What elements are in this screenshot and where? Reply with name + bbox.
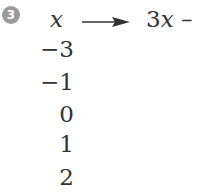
input-value-row: −1 [40,69,74,95]
expr-variable: x [161,6,174,32]
input-value-row: 2 [59,164,74,190]
input-variable: x [50,6,63,32]
expr-operator: – [174,6,193,32]
maps-to-arrow-icon [82,17,130,27]
expr-coefficient: 3 [146,6,161,32]
exercise-number-badge: 3 [2,6,20,24]
input-value-row: 1 [59,131,74,157]
input-value-row: 0 [59,101,74,127]
output-expression: 3x – [146,6,192,32]
input-value-row: −3 [40,36,74,62]
